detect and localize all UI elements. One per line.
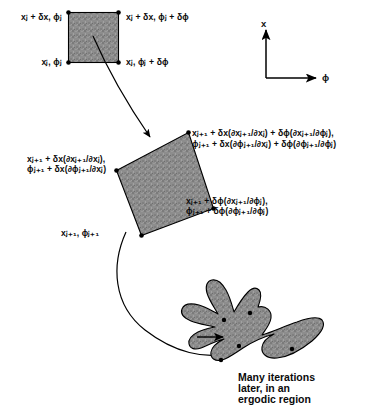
- square-label-bottom-left: xⱼ, ϕⱼ: [0, 57, 62, 67]
- parallelogram-label-bottom-right-line2: ϕⱼ₊₁ + δϕ(∂ϕⱼ₊₁/∂ϕⱼ): [186, 206, 268, 216]
- parallelogram-label-top-right-line1: xⱼ₊₁ + δx(∂xⱼ₊₁/∂xⱼ) + δϕ(∂xⱼ₊₁/∂ϕⱼ),: [192, 128, 334, 138]
- parallelogram-label-bottom-left: xⱼ₊₁, ϕⱼ₊₁: [61, 228, 99, 238]
- parallelogram-label-bottom-right-line1: xⱼ₊₁ + δϕ(∂xⱼ₊₁/∂ϕⱼ),: [186, 196, 268, 206]
- parallelogram-label-left-line1: xⱼ₊₁ + δx(∂xⱼ₊₁/∂xⱼ),: [27, 154, 105, 164]
- axis-label-x: x: [261, 18, 266, 29]
- axes-key: [266, 30, 316, 78]
- square-label-bottom-right: xⱼ, ϕⱼ + δϕ: [126, 57, 169, 67]
- square-label-top-left: xⱼ + δx, ϕⱼ: [0, 12, 62, 22]
- axis-label-phi: ϕ: [322, 72, 329, 83]
- square-label-top-right: xⱼ + δx, ϕⱼ + δϕ: [126, 12, 189, 22]
- parallelogram-label-left-line2: ϕⱼ₊₁ + δx(∂ϕⱼ₊₁/∂xⱼ): [27, 164, 106, 174]
- parallelogram-label-top-right-line2: ϕⱼ₊₁ + δx(∂ϕⱼ₊₁/∂xⱼ) + δϕ(∂ϕⱼ₊₁/∂ϕⱼ): [192, 139, 336, 149]
- blob-caption-line3: ergodic region: [238, 394, 311, 406]
- diagram-canvas: xⱼ + δx, ϕⱼ xⱼ + δx, ϕⱼ + δϕ xⱼ, ϕⱼ xⱼ, …: [0, 0, 373, 415]
- ergodic-region-blob-shape: [181, 280, 323, 362]
